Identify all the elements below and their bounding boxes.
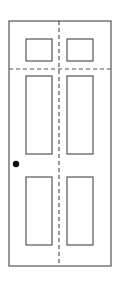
panel-middle-right bbox=[67, 76, 93, 154]
door-diagram bbox=[0, 0, 118, 285]
panel-bottom-right bbox=[67, 177, 93, 245]
door-frame bbox=[9, 21, 111, 266]
panel-top-right bbox=[67, 39, 93, 61]
panel-bottom-left bbox=[26, 177, 52, 245]
panel-middle-left bbox=[26, 76, 52, 154]
panel-top-left bbox=[26, 39, 52, 61]
door-knob bbox=[13, 161, 19, 167]
